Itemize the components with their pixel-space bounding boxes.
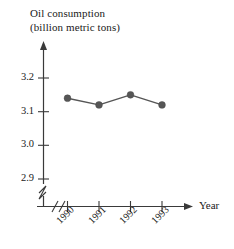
y-tick-label-2-9: 2.9	[8, 172, 34, 183]
x-axis-arrow-icon	[184, 203, 193, 210]
y-axis-break-icon	[39, 186, 46, 199]
data-point-1991	[96, 102, 103, 109]
y-tick-label-3-1: 3.1	[8, 105, 34, 116]
y-axis-arrow-icon	[40, 41, 47, 50]
data-point-1992	[127, 91, 134, 98]
x-axis-title: Year	[199, 199, 219, 211]
data-point-1990	[64, 95, 71, 102]
data-point-1993	[159, 102, 166, 109]
data-series-line	[68, 95, 163, 105]
y-tick-label-3-0: 3.0	[8, 138, 34, 149]
y-tick-label-3-2: 3.2	[8, 71, 34, 82]
chart-canvas	[0, 0, 234, 249]
line-chart: Oil consumption (billion metric tons)	[0, 0, 234, 249]
